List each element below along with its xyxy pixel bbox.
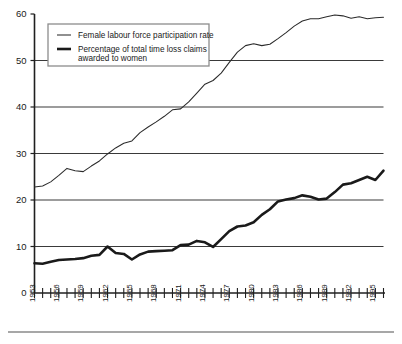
x-tick-label-1992: 1992 bbox=[344, 284, 353, 302]
x-tick-label-1977: 1977 bbox=[222, 284, 231, 302]
x-tick-label-1980: 1980 bbox=[247, 284, 256, 302]
y-tick-label-30: 30 bbox=[16, 148, 27, 159]
x-axis-labels-group: 1953195619591962196519681971197419771980… bbox=[28, 284, 378, 302]
y-tick-label-50: 50 bbox=[16, 55, 27, 66]
x-tick-label-1953: 1953 bbox=[28, 284, 37, 302]
x-tick-label-1995: 1995 bbox=[368, 284, 377, 302]
x-tick-label-1989: 1989 bbox=[320, 284, 329, 302]
legend-label-time-loss-claims: Percentage of total time loss claims bbox=[78, 45, 207, 54]
line-chart: 0102030405060 19531956195919621965196819… bbox=[0, 0, 402, 344]
x-tick-label-1968: 1968 bbox=[149, 284, 158, 302]
y-tick-label-40: 40 bbox=[16, 101, 27, 112]
y-tick-label-60: 60 bbox=[16, 8, 27, 19]
x-tick-label-1965: 1965 bbox=[125, 284, 134, 302]
legend-label-time-loss-claims-line2: awarded to women bbox=[78, 54, 148, 63]
x-tick-label-1959: 1959 bbox=[76, 284, 85, 302]
y-tick-label-10: 10 bbox=[16, 241, 27, 252]
x-tick-label-1962: 1962 bbox=[101, 284, 110, 302]
x-tick-label-1956: 1956 bbox=[52, 284, 61, 302]
chart-legend: Female labour force participation rate P… bbox=[48, 24, 214, 66]
x-tick-label-1986: 1986 bbox=[295, 284, 304, 302]
legend-label-female-participation: Female labour force participation rate bbox=[78, 31, 214, 40]
x-tick-label-1971: 1971 bbox=[174, 284, 183, 302]
x-tick-label-1974: 1974 bbox=[198, 284, 207, 302]
x-tick-label-1983: 1983 bbox=[271, 284, 280, 302]
chart-figure: 0102030405060 19531956195919621965196819… bbox=[0, 0, 402, 344]
y-tick-label-20: 20 bbox=[16, 194, 27, 205]
y-tick-label-0: 0 bbox=[21, 287, 26, 298]
